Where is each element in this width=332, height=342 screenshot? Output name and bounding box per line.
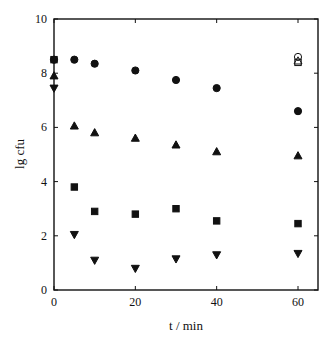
y-tick-label: 8 — [41, 66, 47, 80]
filled-triangle-down-marker — [70, 231, 78, 238]
filled-square-marker — [295, 220, 301, 226]
filled-triangle-down-marker — [50, 85, 58, 92]
filled-triangle-up-marker — [70, 122, 78, 129]
filled-circle-marker — [132, 67, 139, 74]
filled-triangle-down-marker — [91, 257, 99, 264]
filled-triangle-up-marker — [213, 148, 221, 155]
filled-circle-marker — [213, 85, 220, 92]
filled-square-marker — [173, 206, 179, 212]
filled-circle-marker — [294, 108, 301, 115]
y-axis-label: lg cfu — [12, 139, 27, 169]
y-tick-label: 6 — [41, 120, 47, 134]
filled-triangle-down-marker — [131, 265, 139, 272]
filled-square-marker — [213, 218, 219, 224]
filled-square-marker — [51, 56, 57, 62]
filled-circle-marker — [71, 56, 78, 63]
x-tick-label: 60 — [292, 295, 304, 309]
x-axis-label: t / min — [169, 318, 203, 333]
filled-triangle-down-marker — [172, 256, 180, 263]
y-tick-label: 0 — [41, 283, 47, 297]
filled-triangle-up-marker — [91, 129, 99, 136]
filled-triangle-up-marker — [294, 152, 302, 159]
x-tick-label: 20 — [129, 295, 141, 309]
filled-square-marker — [91, 208, 97, 214]
y-tick-label: 2 — [41, 229, 47, 243]
y-tick-label: 4 — [41, 175, 47, 189]
filled-triangle-down-marker — [213, 252, 221, 259]
filled-square-marker — [132, 211, 138, 217]
filled-triangle-down-marker — [294, 250, 302, 257]
filled-circle-marker — [172, 76, 179, 83]
x-tick-label: 40 — [211, 295, 223, 309]
filled-circle-marker — [91, 60, 98, 67]
scatter-chart: 02040600246810 t / min lg cfu — [0, 0, 332, 342]
filled-triangle-up-marker — [131, 134, 139, 141]
plot-frame — [54, 19, 318, 290]
y-tick-label: 10 — [35, 12, 47, 26]
filled-triangle-up-marker — [172, 141, 180, 148]
filled-square-marker — [71, 184, 77, 190]
plot-border — [54, 19, 318, 290]
x-tick-label: 0 — [51, 295, 57, 309]
data-points — [50, 53, 302, 272]
axis-ticks: 02040600246810 — [35, 12, 318, 309]
